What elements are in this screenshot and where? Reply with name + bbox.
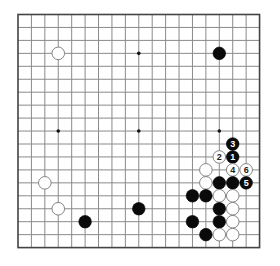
white-stone[interactable] — [226, 202, 239, 215]
black-stone-1[interactable]: 1 — [226, 151, 239, 164]
white-stone[interactable] — [226, 228, 239, 241]
white-stone-4[interactable]: 4 — [226, 164, 239, 177]
white-stone[interactable] — [226, 190, 239, 203]
black-stone[interactable] — [186, 215, 199, 228]
star-point — [218, 129, 222, 133]
white-stone[interactable] — [52, 47, 65, 60]
white-stone[interactable] — [226, 215, 239, 228]
black-stone[interactable] — [213, 177, 226, 190]
black-stone[interactable] — [200, 190, 213, 203]
black-stone[interactable] — [226, 177, 239, 190]
black-stone-3[interactable]: 3 — [226, 138, 239, 151]
white-stone[interactable] — [200, 164, 213, 177]
star-point — [137, 129, 141, 133]
black-stone[interactable] — [213, 202, 226, 215]
white-stone[interactable] — [52, 202, 65, 215]
black-stone[interactable] — [200, 228, 213, 241]
white-stone-6[interactable]: 6 — [240, 164, 253, 177]
move-number-label: 1 — [230, 152, 235, 162]
star-point — [56, 129, 60, 133]
black-stone[interactable] — [79, 215, 92, 228]
go-board[interactable]: 321465 — [0, 0, 280, 266]
black-stone[interactable] — [213, 215, 226, 228]
black-stone-5[interactable]: 5 — [240, 177, 253, 190]
black-stone[interactable] — [132, 202, 145, 215]
move-number-label: 4 — [230, 165, 235, 175]
move-number-label: 2 — [217, 152, 222, 162]
black-stone[interactable] — [186, 190, 199, 203]
move-number-label: 6 — [244, 165, 249, 175]
star-point — [137, 52, 141, 56]
move-number-label: 5 — [244, 178, 249, 188]
white-stone[interactable] — [39, 177, 52, 190]
white-stone[interactable] — [213, 190, 226, 203]
white-stone-2[interactable]: 2 — [213, 151, 226, 164]
move-number-label: 3 — [230, 139, 235, 149]
white-stone[interactable] — [213, 228, 226, 241]
black-stone[interactable] — [213, 47, 226, 60]
white-stone[interactable] — [200, 177, 213, 190]
